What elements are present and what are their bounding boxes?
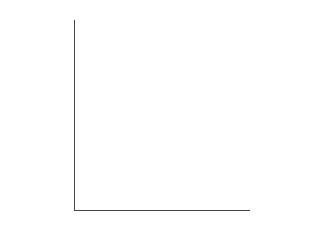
y-axis-line [74,20,75,210]
x-axis-line [74,210,250,211]
